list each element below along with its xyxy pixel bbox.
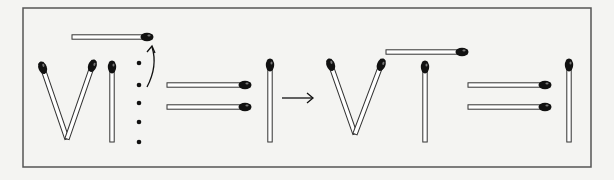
equals-top-match: [468, 81, 552, 89]
result-i-match: [565, 59, 573, 143]
curved-move-arrow-icon: [147, 47, 154, 87]
equals-bottom-match: [468, 103, 552, 111]
v-left-arm-match: [325, 57, 359, 135]
v-right-arm-match: [63, 58, 98, 140]
t-stem-match: [421, 61, 429, 143]
equals-bottom-match: [167, 103, 252, 111]
colon-dot: [137, 140, 142, 145]
matchstick-puzzle-diagram: [0, 0, 614, 180]
v-left-arm-match: [37, 60, 71, 140]
result-i-match: [266, 59, 274, 143]
colon-dot: [137, 120, 142, 125]
after-equation: [325, 48, 574, 142]
i-stem-match: [108, 61, 116, 143]
colon-dot: [137, 101, 142, 106]
equals-top-match: [167, 81, 252, 89]
colon-dot: [137, 83, 142, 88]
colon-dot: [137, 61, 142, 66]
t-top-match: [386, 48, 469, 56]
v-right-arm-match: [351, 57, 387, 135]
before-equation: [37, 33, 275, 145]
colon-dots: [137, 61, 142, 145]
moving-match: [72, 33, 154, 41]
transition-arrow-icon: [282, 93, 313, 103]
